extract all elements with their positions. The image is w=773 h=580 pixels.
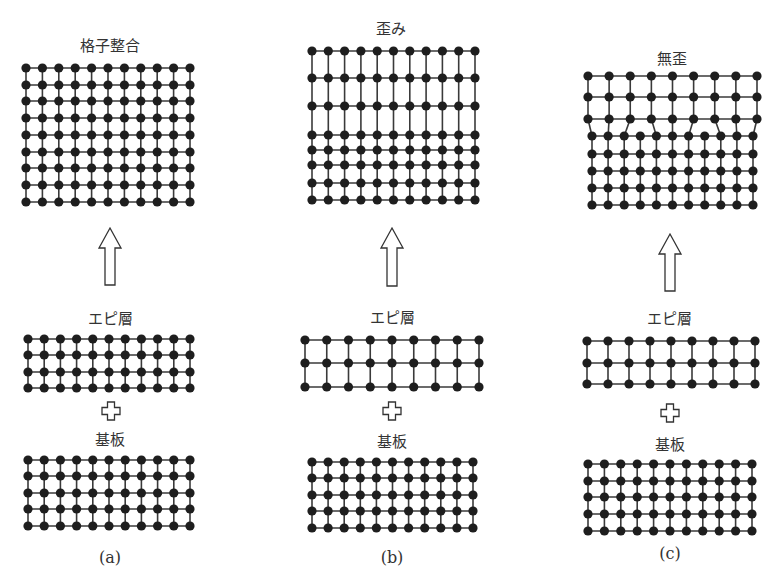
atom — [715, 492, 724, 501]
atom — [624, 379, 633, 388]
atom — [645, 379, 654, 388]
atom — [747, 492, 756, 501]
atom — [356, 506, 365, 515]
atom — [668, 114, 677, 123]
atom — [324, 46, 333, 55]
atom — [185, 147, 194, 156]
atom — [405, 130, 414, 139]
atom — [431, 382, 440, 391]
atom — [700, 200, 709, 209]
atom — [668, 183, 677, 192]
atom — [120, 147, 129, 156]
atom — [620, 149, 629, 158]
atom — [698, 526, 707, 535]
atom — [583, 492, 592, 501]
atom — [104, 383, 113, 392]
atom — [72, 334, 81, 343]
atom — [185, 367, 194, 376]
atom — [684, 131, 693, 140]
atom — [682, 459, 691, 468]
atom — [56, 471, 65, 480]
atom — [153, 383, 162, 392]
panel-b-caption: (b) — [381, 548, 404, 567]
atom — [684, 200, 693, 209]
atom — [340, 46, 349, 55]
atom — [322, 335, 331, 344]
atom — [645, 336, 654, 345]
atom — [56, 521, 65, 530]
atom — [474, 382, 483, 391]
panel-a-substrate-label: 基板 — [95, 428, 125, 449]
atom — [136, 180, 145, 189]
atom — [647, 114, 656, 123]
atom — [668, 200, 677, 209]
atom — [38, 163, 47, 172]
atom — [700, 149, 709, 158]
atom — [169, 63, 178, 72]
atom — [710, 92, 719, 101]
atom — [87, 63, 96, 72]
atom — [620, 166, 629, 175]
atom — [687, 336, 696, 345]
atom — [422, 160, 431, 169]
atom — [583, 114, 592, 123]
atom — [747, 459, 756, 468]
atom — [372, 523, 381, 532]
atom — [324, 457, 333, 466]
atom — [668, 166, 677, 175]
atom — [344, 382, 353, 391]
atom — [23, 521, 32, 530]
atom — [54, 163, 63, 172]
atom — [668, 71, 677, 80]
atom — [185, 163, 194, 172]
atom — [454, 130, 463, 139]
atom — [649, 459, 658, 468]
atom — [38, 197, 47, 206]
atom — [23, 383, 32, 392]
atom — [23, 350, 32, 359]
atom — [340, 195, 349, 204]
atom — [389, 46, 398, 55]
atom — [21, 180, 30, 189]
atom — [340, 73, 349, 82]
atom — [153, 63, 162, 72]
atom — [153, 147, 162, 156]
atom — [356, 178, 365, 187]
atom — [438, 101, 447, 110]
atom — [185, 471, 194, 480]
up-arrow-icon — [659, 234, 681, 291]
atom — [38, 63, 47, 72]
atom — [344, 358, 353, 367]
atom — [120, 63, 129, 72]
atom — [169, 80, 178, 89]
atom — [104, 334, 113, 343]
atom — [405, 101, 414, 110]
atom — [87, 96, 96, 105]
atom — [747, 509, 756, 518]
atom — [388, 490, 397, 499]
atom — [583, 459, 592, 468]
atom — [169, 334, 178, 343]
panel-c — [582, 71, 761, 535]
atom — [373, 101, 382, 110]
atom — [604, 166, 613, 175]
atom — [169, 96, 178, 105]
atom — [169, 197, 178, 206]
atom — [121, 383, 130, 392]
atom — [23, 471, 32, 480]
atom — [731, 476, 740, 485]
atom — [474, 335, 483, 344]
atom — [748, 131, 757, 140]
atom — [169, 367, 178, 376]
atom — [136, 147, 145, 156]
atom — [583, 509, 592, 518]
atom — [54, 147, 63, 156]
atom — [136, 80, 145, 89]
atom — [665, 526, 674, 535]
atom — [120, 96, 129, 105]
atom — [731, 526, 740, 535]
atom — [103, 113, 112, 122]
atom — [153, 334, 162, 343]
atom — [647, 71, 656, 80]
atom — [452, 490, 461, 499]
